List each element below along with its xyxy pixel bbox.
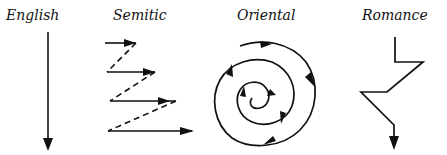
oriental-spiral-icon — [215, 41, 316, 146]
english-straight-arrow-icon — [43, 32, 53, 151]
romance-digressive-arrow-icon — [361, 37, 423, 150]
diagram-canvas — [0, 0, 447, 155]
semitic-zigzag-arrows-icon — [105, 39, 194, 135]
